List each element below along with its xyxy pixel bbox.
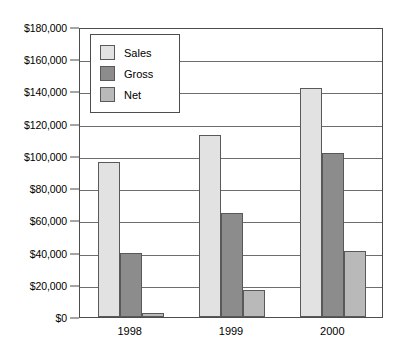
bar-group-2000 (300, 29, 366, 317)
y-axis-tick-mark (70, 124, 79, 125)
y-axis-tick-label: $100,000 (24, 151, 67, 163)
y-axis-tick-mark (70, 285, 79, 286)
legend-swatch-gross (100, 66, 115, 81)
legend-entry-net: Net (100, 84, 171, 105)
y-axis-tick-label: $40,000 (30, 248, 67, 260)
y-axis-tick-label: $140,000 (24, 86, 67, 98)
y-axis-tick-mark (70, 253, 79, 254)
bar-net-1998 (142, 313, 164, 317)
bar-net-2000 (344, 251, 366, 317)
y-axis-tick-label: $80,000 (30, 183, 67, 195)
bar-sales-1998 (98, 162, 120, 317)
bar-sales-2000 (300, 88, 322, 317)
bar-net-1999 (243, 290, 265, 317)
legend-entry-sales: Sales (100, 42, 171, 63)
bar-gross-2000 (322, 153, 344, 317)
y-axis-tick-mark (70, 189, 79, 190)
legend-entry-gross: Gross (100, 63, 171, 84)
legend-label: Net (124, 89, 141, 101)
y-axis-tick-mark (70, 318, 79, 319)
x-axis-category-label: 1998 (117, 325, 141, 337)
y-axis-tick-mark (70, 92, 79, 93)
y-axis-tick-label: $180,000 (24, 22, 67, 34)
x-axis-category-label: 2000 (320, 325, 344, 337)
y-axis-tick-label: $60,000 (30, 215, 67, 227)
y-axis-tick-label: $0 (56, 312, 67, 324)
x-axis-category-label: 1999 (219, 325, 243, 337)
y-axis-tick-label: $20,000 (30, 280, 67, 292)
legend-swatch-sales (100, 45, 115, 60)
bar-gross-1999 (221, 213, 243, 317)
y-axis: $0$20,000$40,000$60,000$80,000$100,000$1… (0, 0, 79, 354)
y-axis-tick-label: $120,000 (24, 119, 67, 131)
bar-chart: $0$20,000$40,000$60,000$80,000$100,000$1… (0, 0, 401, 354)
y-axis-tick-mark (70, 221, 79, 222)
bar-gross-1998 (120, 253, 142, 317)
y-axis-tick-mark (70, 60, 79, 61)
y-axis-tick-label: $160,000 (24, 54, 67, 66)
bar-sales-1999 (199, 135, 221, 317)
legend-label: Sales (124, 47, 152, 59)
legend-swatch-net (100, 87, 115, 102)
y-axis-tick-mark (70, 28, 79, 29)
bar-group-1999 (199, 29, 265, 317)
y-axis-tick-mark (70, 156, 79, 157)
legend-label: Gross (124, 68, 153, 80)
chart-legend: SalesGrossNet (90, 34, 180, 113)
